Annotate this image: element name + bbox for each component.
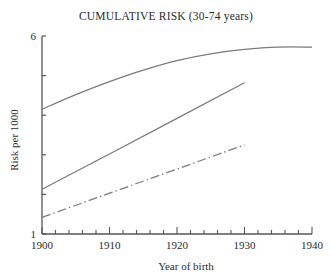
x-tick-label: 1930 [234,239,257,251]
series-middle-line [42,83,245,190]
plot-area: 19001910192019301940 16 Year of birth Ri… [0,0,332,278]
x-axis-title: Year of birth [158,260,214,272]
series-lower-line [42,145,245,217]
x-tick-label: 1910 [99,239,122,251]
series-upper-curve [42,47,312,109]
y-axis-title: Risk per 1000 [8,109,20,171]
x-tick-label: 1900 [31,239,54,251]
x-tick-label: 1920 [166,239,189,251]
y-axis-tick-labels: 16 [31,30,37,240]
chart-container: CUMULATIVE RISK (30-74 years) 1900191019… [0,0,332,278]
y-tick-label: 6 [31,30,37,42]
x-axis-tick-labels: 19001910192019301940 [31,239,324,251]
x-axis-ticks [42,227,312,234]
axes [42,36,312,234]
x-tick-label: 1940 [301,239,324,251]
data-series [42,47,312,217]
y-tick-label: 1 [31,228,37,240]
